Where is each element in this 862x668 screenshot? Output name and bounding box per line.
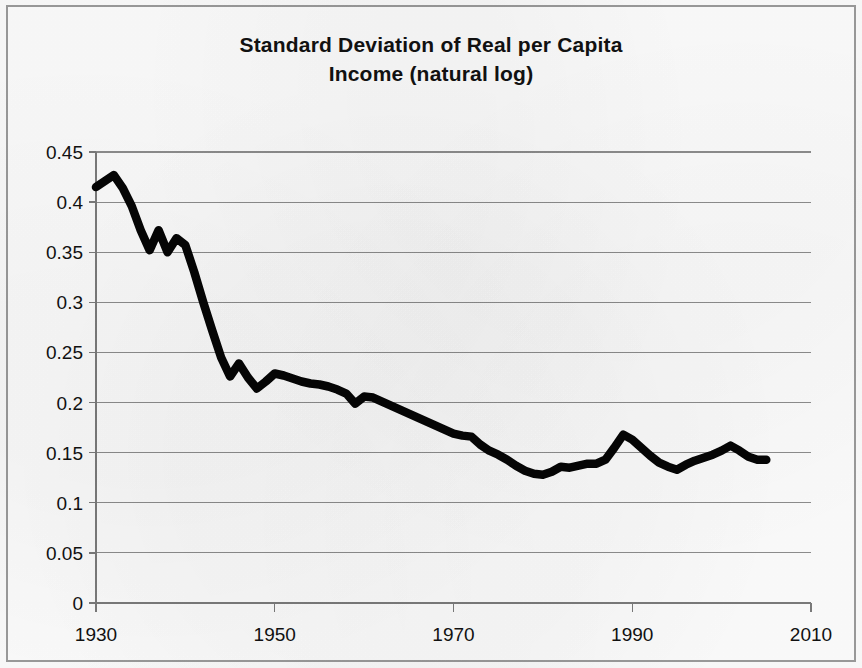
plot-area: 00.050.10.150.20.250.30.350.40.45 193019… [0, 0, 862, 668]
y-tickmarks-group [89, 152, 96, 603]
y-tick-label-0.05: 0.05 [46, 543, 83, 564]
y-tick-label-0.15: 0.15 [46, 443, 83, 464]
data-series-line [96, 175, 766, 475]
x-tick-label-1970: 1970 [432, 624, 474, 645]
x-tick-label-1930: 1930 [75, 624, 117, 645]
x-tick-label-1950: 1950 [254, 624, 296, 645]
y-axis-labels: 00.050.10.150.20.250.30.350.40.45 [46, 142, 83, 614]
y-tick-label-0.1: 0.1 [57, 493, 83, 514]
x-axis-labels: 19301950197019902010 [75, 624, 832, 645]
y-tick-label-0.3: 0.3 [57, 292, 83, 313]
x-tickmarks-group [96, 603, 811, 612]
y-tick-label-0.25: 0.25 [46, 342, 83, 363]
x-tick-label-2010: 2010 [790, 624, 832, 645]
y-tick-label-0.35: 0.35 [46, 242, 83, 263]
y-tick-label-0.45: 0.45 [46, 142, 83, 163]
gridlines-group [96, 152, 811, 553]
y-tick-label-0.4: 0.4 [57, 192, 84, 213]
line-chart: 00.050.10.150.20.250.30.350.40.45 193019… [0, 0, 862, 668]
x-tick-label-1990: 1990 [611, 624, 653, 645]
figure-container: Standard Deviation of Real per Capita In… [0, 0, 862, 668]
y-tick-label-0: 0 [72, 593, 83, 614]
y-tick-label-0.2: 0.2 [57, 393, 83, 414]
axis-lines-group [96, 152, 811, 603]
